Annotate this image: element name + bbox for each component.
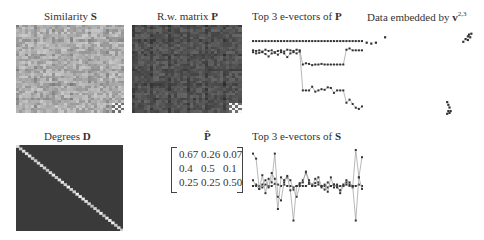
evectors-s-plot (250, 147, 365, 225)
title-text: Top 3 e-vectors of (252, 10, 335, 22)
title-symbol: S (335, 130, 341, 142)
embedding-title: Data embedded by v2,3 (367, 10, 466, 23)
rw-matrix-title: R.w. matrix P (157, 10, 218, 22)
matrix-cell: 0.25 (201, 176, 223, 190)
title-text: Data embedded by (367, 11, 452, 23)
title-symbol: D (83, 130, 91, 142)
title-text: Top 3 e-vectors of (252, 130, 335, 142)
title-superscript: 2,3 (458, 10, 467, 18)
similarity-heatmap (16, 25, 124, 113)
matrix-cell: 0.25 (179, 176, 201, 190)
evectors-p-plot (250, 35, 365, 115)
evectors-p-title: Top 3 e-vectors of P (252, 10, 342, 22)
title-symbol: P̂ (204, 130, 211, 142)
degrees-title: Degrees D (44, 130, 91, 142)
title-text: Similarity (44, 10, 91, 22)
rw-matrix-heatmap (132, 25, 242, 113)
title-text: Degrees (44, 130, 83, 142)
p-hat-title: P̂ (204, 130, 211, 142)
p-hat-grid: 0.670.260.070.40.50.10.250.250.50 (179, 148, 245, 190)
evectors-s-title: Top 3 e-vectors of S (252, 130, 341, 142)
matrix-cell: 0.5 (201, 162, 223, 176)
left-bracket (171, 147, 177, 193)
matrix-cell: 0.26 (201, 148, 223, 162)
title-symbol: P (335, 10, 342, 22)
similarity-title: Similarity S (44, 10, 97, 22)
title-symbol: S (91, 10, 97, 22)
degrees-heatmap (16, 145, 123, 231)
embedding-scatter (362, 30, 477, 120)
matrix-cell: 0.4 (179, 162, 201, 176)
p-hat-matrix: 0.670.260.070.40.50.10.250.250.50 (171, 147, 243, 191)
right-bracket (237, 147, 243, 193)
title-symbol: P (211, 10, 218, 22)
matrix-cell: 0.67 (179, 148, 201, 162)
title-text: R.w. matrix (157, 10, 211, 22)
